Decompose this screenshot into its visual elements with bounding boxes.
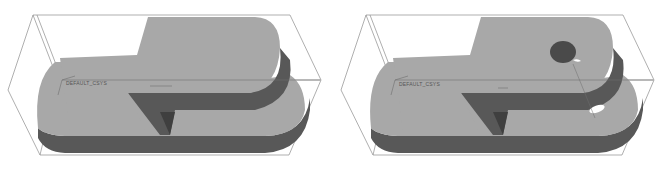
model-viewport-left[interactable]: DEFAULT_CSYS bbox=[0, 0, 333, 170]
cad-model-view: DEFAULT_CSYS bbox=[333, 0, 666, 170]
model-viewport-right[interactable]: DEFAULT_CSYS bbox=[333, 0, 666, 170]
hole-top bbox=[550, 41, 576, 63]
csys-label: DEFAULT_CSYS bbox=[399, 81, 440, 87]
cad-model-view: DEFAULT_CSYS bbox=[0, 0, 333, 170]
csys-label: DEFAULT_CSYS bbox=[66, 80, 107, 86]
